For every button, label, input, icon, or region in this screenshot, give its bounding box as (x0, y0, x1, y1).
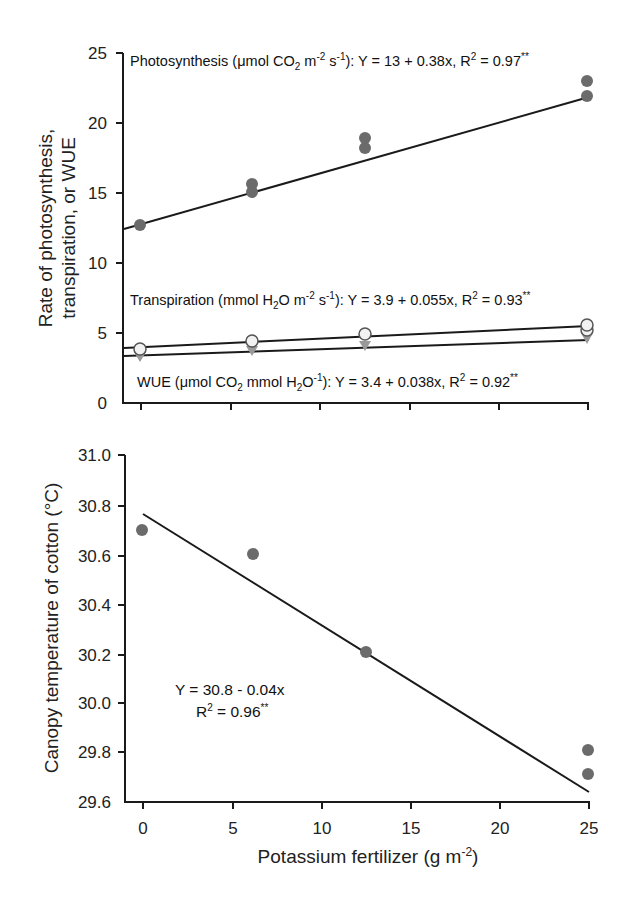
top-y-tick-labels: 0 5 10 15 20 25 (88, 44, 107, 413)
bottom-ytick-29-8: 29.8 (78, 743, 111, 762)
canopy-temp-points (136, 524, 594, 780)
bottom-y-ticks (118, 455, 125, 752)
xtick-20: 20 (491, 819, 510, 838)
x-axis-title: Potassium fertilizer (g m-2) (258, 845, 479, 867)
bottom-y-tick-labels: 29.6 29.8 30.0 30.2 30.4 30.6 30.8 31.0 (78, 446, 111, 812)
top-ytick-25: 25 (88, 44, 107, 63)
bottom-x-ticks (143, 802, 589, 809)
bottom-ytick-29-6: 29.6 (78, 793, 111, 812)
top-x-ticks (141, 403, 588, 410)
top-y-ticks (116, 53, 123, 333)
wue-fit-line (124, 340, 589, 356)
figure: 0 5 10 15 20 25 Rate of photosynthesis, … (0, 0, 620, 911)
bottom-ytick-30-4: 30.4 (78, 596, 111, 615)
transpiration-fit-line (124, 326, 589, 348)
top-ytick-15: 15 (88, 184, 107, 203)
canopy-temp-equation-line2: R2 = 0.96** (196, 702, 269, 720)
bottom-y-axis-title: Canopy temperature of cotton (°C) (41, 483, 62, 774)
bottom-ytick-30-2: 30.2 (78, 646, 111, 665)
top-y-axis-title: Rate of photosynthesis, transpiration, o… (35, 129, 79, 328)
top-ytick-10: 10 (88, 254, 107, 273)
top-ytick-5: 5 (98, 324, 107, 343)
xtick-10: 10 (313, 819, 332, 838)
canopy-temp-equation-line1: Y = 30.8 - 0.04x (175, 681, 285, 698)
top-ylabel-line2: transpiration, or WUE (58, 137, 79, 319)
xtick-5: 5 (228, 819, 237, 838)
bottom-ytick-30-0: 30.0 (78, 694, 111, 713)
photosynthesis-equation: Photosynthesis (μmol CO2 m-2 s-1): Y = 1… (130, 51, 529, 72)
transpiration-points (134, 319, 593, 355)
transpiration-equation: Transpiration (mmol H2O m-2 s-1): Y = 3.… (130, 290, 530, 311)
wue-equation: WUE (μmol CO2 mmol H2O-1): Y = 3.4 + 0.0… (137, 372, 518, 393)
top-ytick-0: 0 (98, 394, 107, 413)
top-panel: 0 5 10 15 20 25 Rate of photosynthesis, … (35, 44, 593, 413)
xtick-0: 0 (138, 819, 147, 838)
bottom-ytick-30-8: 30.8 (78, 497, 111, 516)
photosynthesis-fit-line (124, 97, 589, 229)
top-ylabel-line1: Rate of photosynthesis, (35, 129, 56, 328)
xtick-25: 25 (580, 819, 599, 838)
bottom-panel: 29.6 29.8 30.0 30.2 30.4 30.6 30.8 31.0 … (41, 446, 598, 867)
bottom-x-tick-labels: 0 5 10 15 20 25 (138, 819, 598, 838)
xtick-15: 15 (402, 819, 421, 838)
top-ytick-20: 20 (88, 114, 107, 133)
bottom-ytick-31-0: 31.0 (78, 446, 111, 465)
bottom-ytick-30-6: 30.6 (78, 547, 111, 566)
